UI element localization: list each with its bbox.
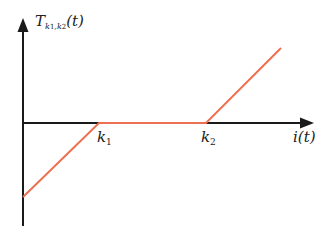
- k2-label: k2: [201, 128, 216, 147]
- y-axis-label-subscript: k1,k2: [45, 22, 66, 31]
- x-axis-label-text: i(t): [293, 128, 316, 146]
- x-axis-arrowhead-icon: [300, 118, 314, 129]
- x-axis-label: i(t): [293, 128, 316, 146]
- y-axis-label: Tk1,k2(t): [35, 12, 84, 31]
- diagram-canvas: [0, 0, 331, 238]
- k1-label: k1: [97, 128, 112, 147]
- k2-index: 2: [210, 137, 216, 147]
- y-axis-arrowhead-icon: [18, 18, 29, 32]
- y-axis-label-main: T: [35, 12, 45, 30]
- k1-name: k: [97, 128, 106, 146]
- k2-name: k: [201, 128, 210, 146]
- k1-index: 1: [106, 137, 112, 147]
- y-axis-label-arg: (t): [66, 12, 84, 30]
